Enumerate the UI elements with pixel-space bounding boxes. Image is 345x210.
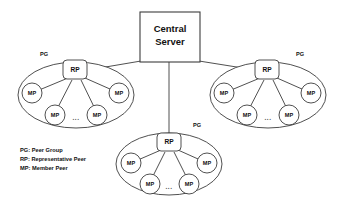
member-peer-label: MP <box>220 90 229 96</box>
member-peer-label: MP <box>93 112 102 118</box>
member-peer-label: MP <box>127 160 136 166</box>
legend-line-rp: RP: Representative Peer <box>20 156 87 162</box>
bottom-peer-group[interactable]: RP MP MP MP MP ... PG <box>116 122 222 195</box>
member-peer-label: MP <box>51 112 60 118</box>
legend-line-pg: PG: Peer Group <box>20 147 63 153</box>
representative-peer-label: RP <box>164 138 174 145</box>
member-peer-label: MP <box>243 112 252 118</box>
members-ellipsis: ... <box>72 114 79 121</box>
network-topology-diagram: RP MP MP MP MP ... PG RP MP <box>0 0 345 210</box>
member-peer-label: MP <box>203 160 212 166</box>
left-peer-group[interactable]: RP MP MP MP MP ... PG <box>18 51 134 128</box>
peer-group-label: PG <box>296 51 304 57</box>
representative-peer-label: RP <box>262 66 272 73</box>
members-ellipsis: ... <box>165 183 172 190</box>
central-server-node[interactable]: Central Server <box>140 12 200 62</box>
members-ellipsis: ... <box>264 114 271 121</box>
member-peer-label: MP <box>28 90 37 96</box>
legend: PG: Peer Group RP: Representative Peer M… <box>20 147 87 171</box>
member-peer-label: MP <box>115 90 124 96</box>
member-peer-label: MP <box>185 181 194 187</box>
central-server-label-line1: Central <box>154 23 187 34</box>
representative-peer-label: RP <box>70 66 80 73</box>
peer-group-label: PG <box>193 122 201 128</box>
central-server-label-line2: Server <box>155 36 185 47</box>
legend-line-mp: MP: Member Peer <box>20 165 69 171</box>
member-peer-label: MP <box>146 181 155 187</box>
right-peer-group[interactable]: RP MP MP MP MP ... PG <box>210 51 326 128</box>
member-peer-label: MP <box>307 90 316 96</box>
peer-group-label: PG <box>40 51 48 57</box>
member-peer-label: MP <box>285 112 294 118</box>
diagram-canvas: RP MP MP MP MP ... PG RP MP <box>0 0 345 210</box>
